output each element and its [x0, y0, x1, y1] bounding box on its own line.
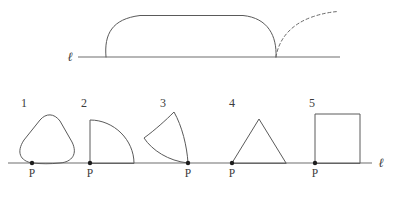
figure-container: ℓ ℓ 1 P 2 P 3 [0, 0, 405, 197]
shape-group-5: 5 P [309, 96, 360, 179]
contact-point-label-1: P [29, 167, 35, 179]
concave-curved-triangle [144, 112, 188, 163]
shape-index-4: 4 [229, 96, 235, 110]
contact-point-dot-5 [313, 161, 317, 165]
rolling-dome-shape [106, 16, 276, 58]
contact-point-dot-4 [230, 161, 234, 165]
quarter-circle [90, 120, 134, 163]
contact-point-label-2: P [87, 167, 93, 179]
contact-point-label-4: P [229, 167, 235, 179]
shape-index-3: 3 [160, 96, 166, 110]
shape-group-1: 1 P [20, 96, 75, 179]
rounded-triangle [20, 115, 75, 164]
shape-index-5: 5 [309, 96, 315, 110]
contact-point-dot-2 [88, 161, 92, 165]
contact-point-label-5: P [312, 167, 318, 179]
shape-group-3: 3 P [144, 96, 191, 179]
tipping-trajectory-dashed [276, 12, 338, 58]
contact-point-dot-3 [186, 161, 190, 165]
triangle [232, 119, 286, 163]
contact-point-dot-1 [30, 161, 34, 165]
top-panel: ℓ [67, 12, 340, 65]
shape-index-1: 1 [21, 96, 27, 110]
shape-group-4: 4 P [229, 96, 286, 179]
bottom-panel: ℓ 1 P 2 P 3 P [8, 96, 384, 179]
square [315, 114, 360, 163]
bottom-line-label-ell: ℓ [378, 156, 383, 170]
geometry-figure: ℓ ℓ 1 P 2 P 3 [0, 0, 405, 197]
contact-point-label-3: P [185, 167, 191, 179]
top-line-label-ell: ℓ [67, 50, 72, 64]
shape-index-2: 2 [81, 96, 87, 110]
shape-group-2: 2 P [81, 96, 134, 179]
